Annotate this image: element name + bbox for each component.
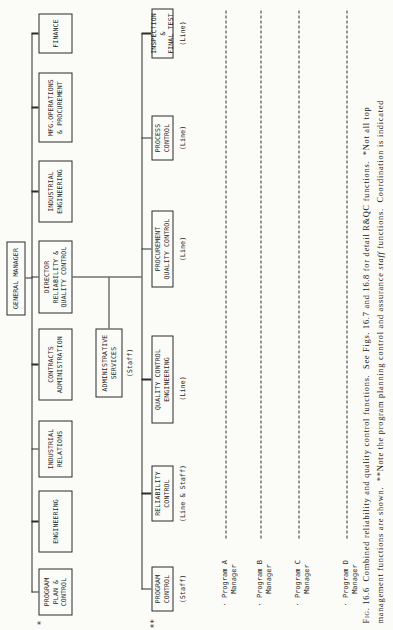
org-chart-canvas: GENERAL MANAGER * PROGRAM PLAN & CONTROL… (0, 0, 393, 630)
org-box-process-control: PROCESS CONTROL (151, 115, 173, 160)
footnote-star-program-control: ** (150, 618, 158, 628)
connector-tick-procurement-quality-control (141, 248, 152, 250)
program-a-manager-label: · Program A Manager (220, 560, 238, 606)
figure-caption-staff-italic: staff (375, 251, 384, 269)
figure-caption-line1-text: Combined reliability and quality control… (361, 106, 370, 587)
org-box-industrial-relations: INDUSTRIAL RELATIONS (38, 420, 72, 477)
connector-tick-director-rqc (31, 276, 39, 278)
org-box-program-control: PROGRAM CONTROL (151, 566, 173, 611)
connector-second-bus (141, 33, 143, 589)
coordination-dash-line-program-d (346, 10, 347, 538)
org-box-industrial-engineering: INDUSTRIAL ENGINEERING (38, 160, 72, 222)
figure-caption-line-1: Fig. 16.6 Combined reliability and quali… (359, 106, 372, 623)
figure-caption-line-2: management functions are shown. **Note t… (373, 99, 386, 623)
org-box-contracts-administration: CONTRACTS ADMINISTRATION (38, 328, 72, 400)
connector-admin-services (108, 277, 110, 328)
connector-tick-program-plan (31, 591, 39, 593)
connector-tick-industrial-engineering (31, 190, 39, 192)
program-c-manager-label: · Program C Manager (293, 560, 311, 606)
connector-top-bus (31, 33, 33, 592)
org-box-inspection-final-test: INSPECTION & FINAL TEST (151, 8, 173, 58)
annotation-reliability-control: (Line & Staff) (178, 453, 187, 533)
connector-tick-industrial-relations (31, 448, 39, 450)
org-box-procurement-quality-control: PROCUREMENT QUALITY CONTROL (151, 210, 173, 287)
connector-tick-quality-control-engineering (141, 378, 152, 380)
org-box-general-manager: GENERAL MANAGER (6, 241, 25, 315)
org-box-engineering: ENGINEERING (38, 490, 72, 552)
org-box-administrative-services: ADMINISTRATIVE SERVICES (95, 328, 122, 397)
coordination-dash-line-program-c (298, 10, 299, 538)
footnote-star-program-plan: * (37, 620, 45, 625)
connector-tick-process-control (141, 137, 152, 139)
coordination-dash-line-program-b (260, 10, 261, 538)
org-box-mfg-operations-procurement: MFG.OPERATIONS & PROCUREMENT (38, 72, 72, 142)
org-box-program-plan-control: PROGRAM PLAN & CONTROL (38, 568, 72, 615)
org-box-finance: FINANCE (38, 13, 72, 53)
scanned-figure-page: GENERAL MANAGER * PROGRAM PLAN & CONTROL… (0, 0, 393, 630)
program-b-manager-label: · Program B Manager (255, 560, 273, 606)
annotation-process-control: (Line) (178, 105, 187, 170)
annotation-quality-control-engineering: (Line) (178, 343, 187, 433)
connector-director-drop (72, 276, 141, 278)
org-box-quality-control-engineering: QUALITY CONTROL ENGINEERING (151, 335, 173, 423)
figure-caption-fig-label: Fig. 16.6 (361, 587, 370, 623)
figure-caption-line2-text-a: management functions are shown. **Note t… (375, 269, 384, 623)
annotation-procurement-quality-control: (Line) (178, 200, 187, 297)
connector-tick-contracts-admin (31, 363, 39, 365)
connector-tick-engineering (31, 520, 39, 522)
program-d-manager-label: · Program D Manager (341, 560, 359, 606)
coordination-dash-line-program-a (225, 10, 226, 538)
connector-tick-reliability-control (141, 492, 152, 494)
org-box-reliability-control: RELIABILITY CONTROL (151, 465, 173, 521)
connector-tick-mfg-operations (31, 106, 39, 108)
connector-tick-program-control (141, 588, 152, 590)
annotation-administrative-services: (Staff) (125, 318, 134, 407)
org-box-director-reliability-quality-control: DIRECTOR RELIABILITY & QUALITY CONTROL (38, 240, 72, 313)
connector-tick-finance (31, 32, 39, 34)
annotation-inspection-final-test: (Line) (178, 0, 187, 68)
annotation-program-control: (Staff) (178, 556, 187, 621)
figure-caption-line2-text-b: functions. Coordination is indicated (375, 99, 384, 251)
